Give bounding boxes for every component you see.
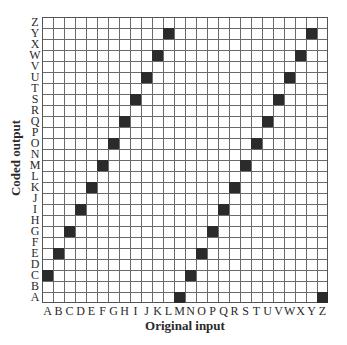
x-tick-label: L bbox=[163, 304, 174, 318]
x-tick-label: Y bbox=[306, 304, 317, 318]
y-tick-label: T bbox=[29, 83, 41, 94]
filled-cell bbox=[229, 182, 240, 193]
filled-cell bbox=[218, 204, 229, 215]
y-tick-label: L bbox=[29, 171, 41, 182]
filled-cell bbox=[119, 116, 130, 127]
x-tick-label: S bbox=[240, 304, 251, 318]
x-tick-label: H bbox=[119, 304, 130, 318]
x-axis-title: Original input bbox=[42, 318, 328, 334]
y-tick-label: O bbox=[29, 138, 41, 149]
y-tick-label: X bbox=[29, 39, 41, 50]
x-tick-label: M bbox=[174, 304, 185, 318]
grid-line-vertical bbox=[306, 18, 307, 302]
filled-cell bbox=[152, 50, 163, 61]
y-tick-label: F bbox=[29, 237, 41, 248]
y-tick-label: R bbox=[29, 105, 41, 116]
filled-cell bbox=[174, 292, 185, 303]
x-tick-label: F bbox=[97, 304, 108, 318]
x-tick-label: Q bbox=[218, 304, 229, 318]
y-tick-label: K bbox=[29, 182, 41, 193]
filled-cell bbox=[295, 50, 306, 61]
x-tick-label: V bbox=[273, 304, 284, 318]
x-tick-label: T bbox=[251, 304, 262, 318]
y-tick-label: I bbox=[29, 204, 41, 215]
y-tick-label: M bbox=[29, 160, 41, 171]
filled-cell bbox=[130, 94, 141, 105]
y-tick-label: D bbox=[29, 259, 41, 270]
filled-cell bbox=[163, 28, 174, 39]
y-tick-label: B bbox=[29, 281, 41, 292]
y-tick-label: G bbox=[29, 226, 41, 237]
y-tick-label: C bbox=[29, 270, 41, 281]
filled-cell bbox=[317, 292, 328, 303]
y-tick-label: V bbox=[29, 61, 41, 72]
filled-cell bbox=[306, 28, 317, 39]
filled-cell bbox=[185, 270, 196, 281]
x-tick-label: G bbox=[108, 304, 119, 318]
y-tick-label: Y bbox=[29, 28, 41, 39]
x-tick-label: I bbox=[130, 304, 141, 318]
grid-line-horizontal bbox=[43, 259, 327, 260]
y-tick-label: H bbox=[29, 215, 41, 226]
y-tick-label: Q bbox=[29, 116, 41, 127]
y-tick-label: S bbox=[29, 94, 41, 105]
filled-cell bbox=[42, 270, 53, 281]
x-tick-label: P bbox=[207, 304, 218, 318]
x-tick-label: U bbox=[262, 304, 273, 318]
x-tick-label: R bbox=[229, 304, 240, 318]
y-tick-label: Z bbox=[29, 17, 41, 28]
filled-cell bbox=[97, 160, 108, 171]
y-tick-label: E bbox=[29, 248, 41, 259]
x-tick-label: O bbox=[196, 304, 207, 318]
x-tick-label: W bbox=[284, 304, 295, 318]
x-tick-label: D bbox=[75, 304, 86, 318]
grid-line-horizontal bbox=[43, 292, 327, 293]
filled-cell bbox=[64, 226, 75, 237]
filled-cell bbox=[251, 138, 262, 149]
filled-cell bbox=[53, 248, 64, 259]
grid-line-vertical bbox=[317, 18, 318, 302]
filled-cell bbox=[108, 138, 119, 149]
filled-cell bbox=[196, 248, 207, 259]
x-tick-label: N bbox=[185, 304, 196, 318]
x-tick-label: J bbox=[141, 304, 152, 318]
filled-cell bbox=[240, 160, 251, 171]
y-axis-title: Coded output bbox=[8, 78, 24, 238]
x-tick-label: B bbox=[53, 304, 64, 318]
filled-cell bbox=[262, 116, 273, 127]
filled-cell bbox=[141, 72, 152, 83]
y-tick-label: A bbox=[29, 292, 41, 303]
x-tick-label: X bbox=[295, 304, 306, 318]
y-tick-label: U bbox=[29, 72, 41, 83]
y-tick-label: J bbox=[29, 193, 41, 204]
y-tick-label: N bbox=[29, 149, 41, 160]
filled-cell bbox=[273, 94, 284, 105]
filled-cell bbox=[284, 72, 295, 83]
x-tick-label: C bbox=[64, 304, 75, 318]
filled-cell bbox=[86, 182, 97, 193]
x-tick-label: Z bbox=[317, 304, 328, 318]
filled-cell bbox=[75, 204, 86, 215]
grid-line-horizontal bbox=[43, 281, 327, 282]
x-tick-label: K bbox=[152, 304, 163, 318]
x-tick-label: A bbox=[42, 304, 53, 318]
y-tick-label: W bbox=[29, 50, 41, 61]
x-tick-label: E bbox=[86, 304, 97, 318]
y-tick-label: P bbox=[29, 127, 41, 138]
filled-cell bbox=[207, 226, 218, 237]
mapping-grid bbox=[42, 17, 328, 303]
